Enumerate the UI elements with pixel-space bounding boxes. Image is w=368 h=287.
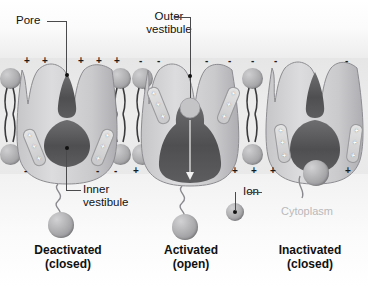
sensor-charge: + xyxy=(35,154,42,163)
sensor-charge: + xyxy=(155,101,162,110)
leader-outer-vestibule-horizontal xyxy=(175,17,190,18)
membrane-charge-inner: - xyxy=(96,166,99,176)
sensor-charge: + xyxy=(229,89,236,98)
sensor-charge: + xyxy=(353,127,359,136)
membrane-charge-inner: - xyxy=(114,166,117,176)
label-pore: Pore xyxy=(16,14,40,27)
leader-pore-horizontal xyxy=(47,21,66,22)
membrane-charge-inner: + xyxy=(232,166,238,176)
label-inner-vestibule: Inner vestibule xyxy=(83,183,128,209)
sensor-charge: + xyxy=(103,131,110,140)
membrane-charge-inner: + xyxy=(251,166,257,176)
membrane-charge-outer: + xyxy=(114,56,120,66)
sensor-charge: + xyxy=(31,143,38,152)
sensor-charge: + xyxy=(94,154,101,163)
tether-chain-deactivated xyxy=(56,184,60,214)
tether-chain-inactivated xyxy=(299,176,303,198)
sensor-charge: + xyxy=(26,131,33,140)
sensor-charge: + xyxy=(278,127,284,136)
outer-vestibule-marker-dot xyxy=(188,74,192,78)
sensor-charge: + xyxy=(280,139,286,148)
membrane-charge-inner: + xyxy=(133,166,139,176)
membrane-charge-outer: - xyxy=(274,56,277,66)
sensor-charge: + xyxy=(150,89,157,98)
membrane-charge-outer: - xyxy=(345,56,348,66)
state-label-activated: Activated (open) xyxy=(136,243,246,271)
inactivation-ball-activated xyxy=(172,214,198,240)
leader-outer-vestibule-vertical xyxy=(190,17,191,98)
leader-ion-horizontal xyxy=(248,192,262,193)
sensor-charge: + xyxy=(220,112,227,121)
sensor-charge: + xyxy=(159,112,166,121)
membrane-charge-outer: - xyxy=(228,56,231,66)
sensor-charge: + xyxy=(281,151,287,160)
membrane-charge-outer: + xyxy=(24,56,30,66)
membrane-charge-outer: - xyxy=(157,56,160,66)
diagram-canvas: ++++++++++++++++++ +++++----------+++++ … xyxy=(0,0,368,287)
label-cytoplasm: Cytoplasm xyxy=(281,205,333,217)
leader-ion-vertical xyxy=(235,192,236,211)
leader-inner-vestibule-vertical xyxy=(66,148,67,190)
inactivation-ball-deactivated xyxy=(48,212,74,238)
sensor-charge: + xyxy=(99,143,106,152)
sensor-charge: + xyxy=(352,139,358,148)
leader-inner-vestibule-horizontal xyxy=(66,190,81,191)
membrane-charge-outer: - xyxy=(251,56,254,66)
membrane-charge-inner: + xyxy=(270,166,276,176)
state-label-deactivated: Deactivated (closed) xyxy=(8,243,128,271)
membrane-charge-inner: + xyxy=(345,166,351,176)
label-outer-vestibule: Outer vestibule xyxy=(131,10,207,36)
membrane-charge-outer: + xyxy=(96,56,102,66)
pore-marker-dot xyxy=(65,73,69,77)
membrane-charge-outer: + xyxy=(42,56,48,66)
membrane-charge-outer: + xyxy=(78,56,84,66)
membrane-charge-inner: - xyxy=(24,166,27,176)
sensor-charge: + xyxy=(350,151,356,160)
inner-vestibule-marker-dot xyxy=(65,146,69,150)
state-label-inactivated: Inactivated (closed) xyxy=(252,243,368,271)
membrane-charge-outer: - xyxy=(205,56,208,66)
leader-pore-vertical xyxy=(66,21,67,75)
membrane-charge-outer: - xyxy=(139,56,142,66)
sensor-charge: + xyxy=(225,101,232,110)
tether-chain-activated xyxy=(180,186,184,216)
